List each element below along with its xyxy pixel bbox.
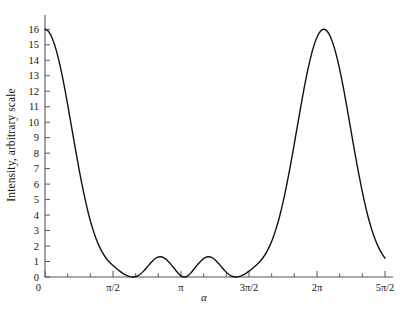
y-tick-label: 3 [34,225,39,236]
y-tick-label: 13 [29,70,40,81]
tick-label-layer: 0123456789101112131415160π/2π3π/22π5π/2 [29,24,395,293]
y-tick-label: 10 [29,117,40,128]
y-tick-label: 12 [29,86,40,97]
y-tick-label: 2 [34,241,39,252]
figure-container: 0123456789101112131415160π/2π3π/22π5π/2 … [0,0,408,310]
chart-plot: 0123456789101112131415160π/2π3π/22π5π/2 [0,0,408,310]
x-axis-title: α [0,291,408,303]
y-tick-label: 15 [29,39,40,50]
y-tick-label: 11 [29,101,39,112]
y-tick-label: 9 [34,132,39,143]
axis-layer [45,15,393,277]
y-tick-label: 8 [34,148,39,159]
y-tick-label: 16 [29,24,40,35]
y-tick-label: 5 [34,194,39,205]
y-tick-label: 14 [29,55,40,66]
data-curve-layer [45,29,385,277]
y-tick-label: 1 [34,256,39,267]
y-tick-label: 4 [34,210,40,221]
y-tick-label: 7 [34,163,39,174]
intensity-curve [45,29,385,277]
y-tick-label: 0 [34,272,39,283]
y-tick-label: 6 [34,179,39,190]
